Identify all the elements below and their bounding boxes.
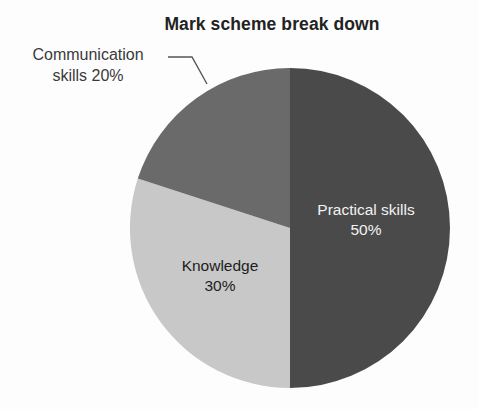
pie-label-communication-skills: Communication skills 20% [8,44,168,86]
pie-label-practical-skills-name: Practical skills [296,200,436,220]
pie-label-practical-skills-percent: 50% [296,220,436,240]
pie-label-knowledge: Knowledge 30% [150,256,290,296]
pie-label-communication-skills-percent: skills 20% [8,65,168,86]
pie-label-communication-skills-name: Communication [8,44,168,65]
pie-chart-figure: Mark scheme break down Practical skills … [0,0,478,409]
communication-label-leader-line [168,57,207,84]
pie-label-knowledge-percent: 30% [150,276,290,296]
pie-label-knowledge-name: Knowledge [150,256,290,276]
pie-label-practical-skills: Practical skills 50% [296,200,436,240]
